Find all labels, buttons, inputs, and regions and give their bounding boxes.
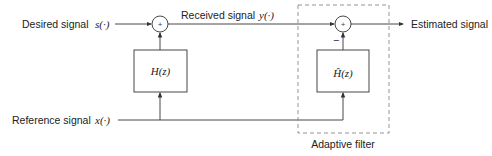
adaptive-filter-diagram: Desired signal s(·) + Received signal y(… <box>0 0 492 156</box>
received-signal-label: Received signal <box>181 9 255 21</box>
plant-block-label: H(z) <box>150 65 171 78</box>
estimated-signal-label: Estimated signal <box>411 18 488 30</box>
received-signal-symbol: y(·) <box>258 9 274 22</box>
sum2-minus-sign: − <box>333 34 339 46</box>
desired-signal-symbol: s(·) <box>95 18 110 31</box>
sum2-plus-sign: + <box>341 20 346 29</box>
adaptive-filter-label: Adaptive filter <box>311 138 375 150</box>
estimate-block-label: Ĥ(z) <box>332 67 353 80</box>
desired-signal-label: Desired signal <box>22 18 89 30</box>
reference-signal-label: Reference signal <box>12 114 91 126</box>
reference-line <box>118 93 343 120</box>
sum1-plus-sign: + <box>158 20 163 29</box>
reference-signal-symbol: x(·) <box>94 114 110 127</box>
